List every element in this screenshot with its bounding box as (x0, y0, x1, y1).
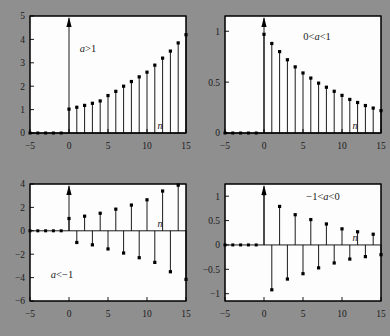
stem-marker (122, 85, 125, 88)
stem-marker (67, 217, 70, 220)
stem-marker (372, 106, 375, 109)
stem-marker (270, 42, 273, 45)
stem-marker-zero (60, 229, 63, 232)
x-tick-label: 0 (262, 309, 267, 319)
stem-marker (278, 205, 281, 208)
panel-minus-1-less-a-less-0-svg: −5051015−1−0.500.51n−1<a<0 (195, 168, 390, 336)
x-tick-label: 0 (67, 141, 72, 151)
stem-marker (340, 227, 343, 230)
stem-marker (145, 198, 148, 201)
stem-marker-zero (231, 243, 234, 246)
x-tick-label: 5 (301, 309, 306, 319)
panel-minus-1-less-a-less-0: −5051015−1−0.500.51n−1<a<0 (195, 168, 390, 336)
y-tick-label: −6 (15, 296, 25, 306)
x-axis-label: n (158, 120, 163, 131)
stem-marker (67, 108, 70, 111)
x-tick-label: 0 (67, 309, 72, 319)
y-tick-label: 2 (20, 82, 25, 92)
stem-marker (91, 102, 94, 105)
stem-marker-zero (52, 229, 55, 232)
stem-marker (177, 41, 180, 44)
stem-marker (301, 272, 304, 275)
stem-marker (161, 57, 164, 60)
y-tick-label: 0 (20, 226, 25, 236)
x-tick-label: −5 (220, 309, 230, 319)
y-tick-label: 0.5 (208, 78, 220, 88)
stem-marker (301, 71, 304, 74)
x-tick-label: 10 (337, 141, 347, 151)
x-axis-label: n (353, 232, 358, 243)
y-tick-label: 2 (20, 203, 25, 213)
stem-marker (340, 94, 343, 97)
stem-marker-zero (239, 243, 242, 246)
stem-marker (262, 33, 265, 36)
condition-label: 0<a<1 (303, 31, 331, 42)
stem-marker (364, 255, 367, 258)
condition-label: −1<a<0 (306, 191, 340, 202)
stem-marker (278, 50, 281, 53)
x-tick-label: 15 (181, 309, 191, 319)
stem-marker (294, 213, 297, 216)
stem-marker (325, 222, 328, 225)
y-tick-label: 1 (215, 192, 220, 202)
x-tick-label: 0 (262, 141, 267, 151)
panel-a-less-minus-1-svg: −5051015−6−4−2024na<−1 (0, 168, 195, 336)
stem-marker (99, 212, 102, 215)
stem-marker-zero (255, 243, 258, 246)
stem-marker (348, 257, 351, 260)
y-tick-label: 1 (20, 105, 25, 115)
stem-marker (75, 106, 78, 109)
stem-marker (169, 50, 172, 53)
stem-marker (153, 261, 156, 264)
panel-a-greater-1: −5051015012345na>1 (0, 0, 195, 168)
x-tick-label: 5 (301, 141, 306, 151)
panel-a-less-minus-1: −5051015−6−4−2024na<−1 (0, 168, 195, 336)
stem-marker (138, 75, 141, 78)
x-axis-label: n (353, 120, 358, 131)
y-tick-label: −1 (210, 289, 220, 299)
stem-marker (169, 270, 172, 273)
y-tick-label: 5 (20, 11, 25, 21)
stem-marker (317, 82, 320, 85)
x-tick-label: 10 (142, 309, 152, 319)
stem-plot-grid: −5051015012345na>1 −505101500.51n0<a<1 −… (0, 0, 390, 336)
x-tick-label: 5 (106, 309, 111, 319)
stem-marker (83, 104, 86, 107)
condition-label: a>1 (80, 43, 96, 54)
x-tick-label: 15 (376, 141, 386, 151)
stem-marker (83, 215, 86, 218)
stem-marker-zero (247, 243, 250, 246)
stem-marker (294, 65, 297, 68)
stem-marker (364, 104, 367, 107)
stem-marker (114, 90, 117, 93)
stem-marker (309, 76, 312, 79)
stem-marker (106, 94, 109, 97)
stem-marker (286, 277, 289, 280)
x-tick-label: −5 (220, 141, 230, 151)
y-tick-label: 0 (215, 240, 220, 250)
stem-marker (286, 58, 289, 61)
panel-0-less-a-less-1: −505101500.51n0<a<1 (195, 0, 390, 168)
stem-marker (91, 243, 94, 246)
y-tick-label: 0 (215, 128, 220, 138)
stem-marker (309, 218, 312, 221)
y-tick-label: 4 (20, 179, 25, 189)
y-tick-label: −4 (15, 273, 25, 283)
stem-marker (153, 64, 156, 67)
stem-marker (348, 98, 351, 101)
stem-marker (333, 90, 336, 93)
y-tick-label: 0 (20, 128, 25, 138)
y-tick-label: 4 (20, 35, 25, 45)
x-axis-label: n (158, 218, 163, 229)
y-tick-label: −2 (15, 250, 25, 260)
stem-marker (106, 247, 109, 250)
stem-marker (122, 251, 125, 254)
stem-marker (161, 189, 164, 192)
stem-marker (145, 71, 148, 74)
stem-marker (130, 80, 133, 83)
y-tick-label: 1 (215, 27, 220, 37)
stem-marker (325, 86, 328, 89)
x-tick-label: −5 (25, 309, 35, 319)
y-tick-label: −0.5 (203, 265, 220, 275)
stem-marker (130, 203, 133, 206)
